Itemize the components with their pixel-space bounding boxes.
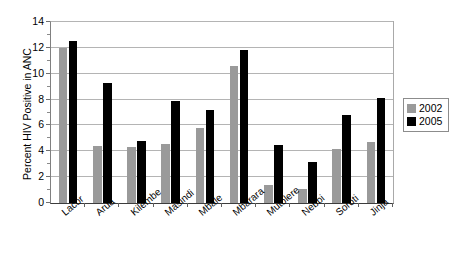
legend-label-2005: 2005 <box>419 116 442 127</box>
x-axis-tick-mark <box>118 203 119 207</box>
bar-soroti-2005 <box>342 115 351 203</box>
x-axis-tick-mark <box>221 203 222 207</box>
y-axis-tick-label: 6 <box>22 119 44 130</box>
x-axis-tick-mark <box>255 203 256 207</box>
bar-jinja-2002 <box>367 142 376 203</box>
x-axis-tick-mark <box>289 203 290 207</box>
y-axis-tick-label: 10 <box>22 68 44 79</box>
x-axis-tick-mark <box>187 203 188 207</box>
bar-arua-2002 <box>93 146 102 203</box>
y-axis-tick-label: 4 <box>22 145 44 156</box>
bar-soroti-2002 <box>332 149 341 203</box>
x-axis-tick-mark <box>324 203 325 207</box>
bar-lacor-2002 <box>59 48 68 203</box>
plot-area <box>50 21 394 204</box>
x-axis-tick-mark <box>153 203 154 207</box>
bar-mbarara-2002 <box>230 66 239 203</box>
bar-chart: Percent HIV Positive in ANC 02468101214 … <box>0 0 455 273</box>
bar-mbale-2005 <box>206 110 215 203</box>
x-axis-tick-mark <box>358 203 359 207</box>
x-axis-tick-mark <box>392 203 393 207</box>
legend-item-2005: 2005 <box>407 115 446 128</box>
y-axis-tick-label: 8 <box>22 94 44 105</box>
gridline <box>51 73 393 74</box>
gridline <box>51 21 393 22</box>
bar-masindi-2005 <box>171 101 180 203</box>
y-axis-tick-label: 12 <box>22 42 44 53</box>
chart-legend: 20022005 <box>403 98 449 132</box>
bar-jinja-2005 <box>377 98 386 203</box>
legend-swatch-2005 <box>407 117 416 126</box>
bar-mbarara-2005 <box>240 50 249 203</box>
x-axis-tick-mark <box>84 203 85 207</box>
bar-lacor-2005 <box>69 41 78 203</box>
y-axis-tick-label: 2 <box>22 171 44 182</box>
legend-item-2002: 2002 <box>407 102 446 115</box>
legend-swatch-2002 <box>407 104 416 113</box>
bar-kilembe-2005 <box>137 141 146 203</box>
gridline <box>51 47 393 48</box>
y-axis-tick-label: 14 <box>22 16 44 27</box>
y-axis-tick-label: 0 <box>22 197 44 208</box>
legend-label-2002: 2002 <box>419 103 442 114</box>
bar-arua-2005 <box>103 83 112 203</box>
bar-kilembe-2002 <box>127 147 136 203</box>
bar-mbale-2002 <box>196 128 205 203</box>
